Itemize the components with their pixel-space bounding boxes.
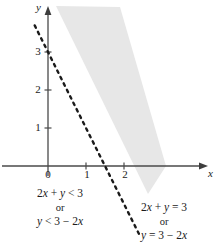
x-tick-label-2: 2 bbox=[118, 169, 132, 180]
equation-line-1: 2x + y = 3 bbox=[112, 200, 216, 215]
inequality-or-word: or bbox=[8, 201, 112, 214]
inequality-solved-body: < 3 − 2 bbox=[42, 215, 78, 227]
equation-operator: + bbox=[152, 201, 164, 213]
x-axis-arrow bbox=[199, 163, 208, 170]
equation-or-word: or bbox=[112, 215, 216, 228]
inequality-solved-var-x: x bbox=[78, 215, 83, 227]
origin-label: 0 bbox=[41, 169, 55, 180]
y-axis-label: y bbox=[36, 2, 41, 13]
equation-solved-var-x: x bbox=[182, 229, 187, 241]
inequality-operator: + bbox=[48, 187, 60, 199]
y-tick-label-3: 3 bbox=[31, 46, 45, 57]
inequality-line-1: 2x + y < 3 bbox=[8, 186, 112, 201]
equation-caption: 2x + y = 3 or y = 3 − 2x bbox=[112, 200, 216, 243]
x-axis-label: x bbox=[208, 168, 213, 179]
inequality-relation: < 3 bbox=[65, 187, 83, 199]
inequality-caption: 2x + y < 3 or y < 3 − 2x bbox=[8, 186, 112, 229]
inequality-graph-figure: y x 3 2 1 0 1 2 2x + y < 3 or y < 3 − 2x… bbox=[0, 0, 222, 252]
equation-relation: = 3 bbox=[169, 201, 187, 213]
equation-line-2: y = 3 − 2x bbox=[112, 228, 216, 243]
y-tick-label-1: 1 bbox=[31, 122, 45, 133]
inequality-line-2: y < 3 − 2x bbox=[8, 214, 112, 229]
y-axis-arrow bbox=[45, 6, 52, 15]
y-tick-label-2: 2 bbox=[31, 84, 45, 95]
x-tick-label-1: 1 bbox=[80, 169, 94, 180]
equation-solved-body: = 3 − 2 bbox=[146, 229, 182, 241]
